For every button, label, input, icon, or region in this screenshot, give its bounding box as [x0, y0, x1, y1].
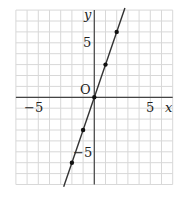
data-point: [70, 161, 74, 165]
data-point: [81, 128, 85, 132]
x-axis-label: x: [165, 100, 173, 115]
data-point: [103, 62, 107, 66]
line-chart: y x O −5 5 5 −5: [0, 0, 185, 198]
origin-label: O: [80, 82, 91, 97]
y-tick-5: 5: [83, 35, 91, 50]
x-tick-neg5: −5: [24, 100, 43, 115]
data-point: [92, 95, 96, 99]
x-tick-5: 5: [146, 100, 154, 115]
data-point: [115, 30, 119, 34]
y-axis-label: y: [83, 7, 92, 22]
y-tick-neg5: −5: [73, 145, 92, 160]
